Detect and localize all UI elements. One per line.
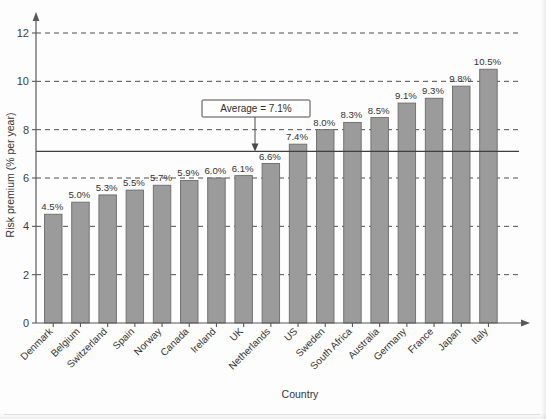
bar-value-label: 8.0% <box>313 117 335 128</box>
bar-value-label: 8.5% <box>368 105 390 116</box>
bar-value-label: 6.6% <box>259 151 281 162</box>
y-tick-label: 0 <box>23 317 29 329</box>
y-tick-label: 6 <box>23 172 29 184</box>
bar-value-label: 8.3% <box>341 109 363 120</box>
category-label: US <box>282 325 300 343</box>
y-axis-ticks: 024681012 <box>17 27 36 329</box>
bar <box>126 190 144 323</box>
bar-value-label: 7.4% <box>286 131 308 142</box>
bar-value-label: 5.5% <box>123 177 145 188</box>
bar <box>344 122 362 323</box>
bar <box>453 86 471 323</box>
bar-value-label: 6.1% <box>232 163 254 174</box>
category-label: France <box>406 325 436 355</box>
bar-value-label: 9.3% <box>422 85 444 96</box>
y-axis-title: Risk premium (% per year) <box>4 113 16 238</box>
category-labels: DenmarkBelgiumSwitzerlandSpainNorwayCana… <box>18 325 490 372</box>
category-label: Ireland <box>188 326 217 355</box>
y-tick-label: 8 <box>23 124 29 136</box>
y-tick-label: 10 <box>17 75 29 87</box>
bar-value-label: 6.0% <box>205 165 227 176</box>
bar-value-label: 5.0% <box>69 189 91 200</box>
y-axis-arrowhead <box>33 12 40 21</box>
bar-value-label: 5.9% <box>177 167 199 178</box>
bar <box>480 69 498 323</box>
bar-value-label: 9.1% <box>395 90 417 101</box>
category-label: Italy <box>469 326 490 347</box>
average-callout-label: Average = 7.1% <box>220 103 291 114</box>
average-callout-arrowhead <box>252 143 259 151</box>
bar <box>289 144 307 323</box>
y-tick-label: 12 <box>17 27 29 39</box>
bar <box>425 98 443 323</box>
bar <box>208 178 226 323</box>
category-label: Canada <box>158 325 191 358</box>
category-label: Japan <box>436 326 463 353</box>
category-label: Denmark <box>18 325 55 362</box>
bar-value-label: 5.3% <box>96 182 118 193</box>
bar <box>398 103 416 323</box>
chart-page: Average = 7.1% 024681012 4.5%5.0%5.3%5.5… <box>0 0 546 419</box>
bar-value-label: 9.8% <box>449 73 471 84</box>
bar-chart: Average = 7.1% 024681012 4.5%5.0%5.3%5.5… <box>0 0 546 419</box>
y-tick-label: 4 <box>23 220 29 232</box>
bar <box>99 195 117 323</box>
bar-value-label: 5.7% <box>150 172 172 183</box>
bar <box>317 130 335 323</box>
y-tick-label: 2 <box>23 269 29 281</box>
bar <box>45 214 63 323</box>
category-label: Norway <box>132 326 164 358</box>
bar <box>181 180 199 323</box>
x-axis-arrowhead <box>521 320 530 327</box>
category-label: UK <box>227 325 245 343</box>
bar <box>153 185 171 323</box>
bar <box>371 118 389 323</box>
bar-value-label: 4.5% <box>41 201 63 212</box>
bar-value-label: 10.5% <box>474 56 502 67</box>
bar <box>235 176 253 323</box>
bar <box>72 202 90 323</box>
x-axis-title: Country <box>282 388 320 400</box>
bar <box>262 164 280 324</box>
